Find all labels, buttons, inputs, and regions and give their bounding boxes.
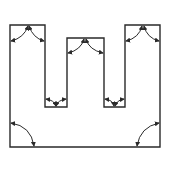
bottom-left-corner-arc [11,123,34,146]
right-notch-arc-left [105,99,114,106]
middle-column-arc-left [68,39,84,53]
floor-plan-diagram [0,0,170,173]
bottom-right-corner-arc [137,123,159,146]
left-column-arc-left [11,26,28,41]
left-notch-arc-left [46,99,56,106]
left-notch-arc-right [56,99,66,106]
right-notch-arc-right [115,99,124,106]
right-column-arc-right [144,26,159,41]
left-column-arc-right [29,26,44,41]
right-column-arc-left [126,26,142,41]
middle-column-arc-right [86,39,103,53]
plan-outline [10,25,160,147]
